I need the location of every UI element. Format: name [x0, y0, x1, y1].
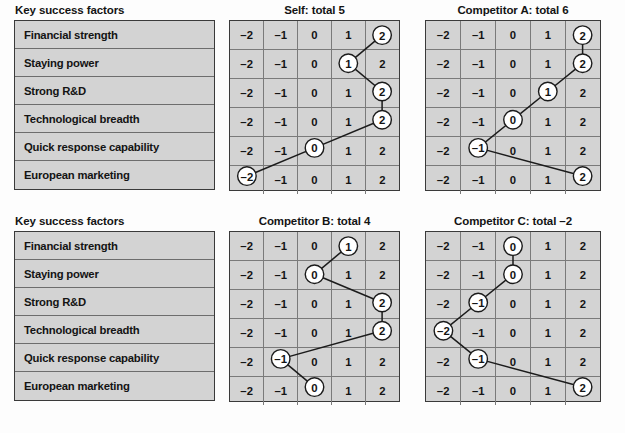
score-cell[interactable]: –1 — [461, 50, 496, 79]
score-cell[interactable]: –2 — [230, 166, 264, 195]
score-cell[interactable]: 2 — [565, 21, 600, 50]
score-cell[interactable]: 0 — [298, 348, 332, 377]
score-cell[interactable]: –2 — [230, 261, 264, 290]
score-cell[interactable]: 1 — [331, 79, 365, 108]
score-cell[interactable]: –1 — [461, 261, 496, 290]
score-cell[interactable]: –1 — [264, 377, 298, 406]
score-cell[interactable]: 2 — [565, 137, 600, 166]
score-cell[interactable]: –2 — [230, 290, 264, 319]
score-cell[interactable]: 0 — [298, 137, 332, 166]
score-cell[interactable]: 2 — [565, 108, 600, 137]
score-cell[interactable]: 2 — [565, 79, 600, 108]
score-cell[interactable]: 1 — [331, 377, 365, 406]
score-cell[interactable]: –1 — [264, 166, 298, 195]
score-cell[interactable]: 2 — [365, 108, 399, 137]
score-cell[interactable]: –2 — [230, 319, 264, 348]
score-cell[interactable]: –1 — [264, 137, 298, 166]
score-cell[interactable]: 1 — [530, 137, 565, 166]
score-cell[interactable]: 0 — [298, 232, 332, 261]
score-cell[interactable]: –2 — [426, 348, 461, 377]
score-cell[interactable]: 0 — [298, 21, 332, 50]
score-cell[interactable]: 0 — [496, 166, 531, 195]
score-cell[interactable]: 0 — [496, 50, 531, 79]
score-cell[interactable]: –1 — [264, 108, 298, 137]
score-cell[interactable]: –2 — [230, 377, 264, 406]
score-cell[interactable]: –1 — [264, 319, 298, 348]
score-cell[interactable]: –2 — [426, 377, 461, 406]
score-cell[interactable]: 1 — [331, 232, 365, 261]
score-cell[interactable]: –1 — [264, 50, 298, 79]
score-cell[interactable]: 1 — [530, 348, 565, 377]
score-cell[interactable]: 1 — [331, 108, 365, 137]
score-cell[interactable]: –1 — [461, 319, 496, 348]
score-cell[interactable]: 1 — [331, 290, 365, 319]
score-cell[interactable]: –1 — [461, 79, 496, 108]
score-cell[interactable]: –2 — [230, 21, 264, 50]
score-cell[interactable]: 1 — [530, 50, 565, 79]
score-cell[interactable]: –1 — [461, 377, 496, 406]
score-cell[interactable]: 2 — [565, 261, 600, 290]
score-cell[interactable]: –1 — [264, 290, 298, 319]
score-cell[interactable]: 1 — [530, 21, 565, 50]
score-cell[interactable]: –2 — [426, 79, 461, 108]
score-cell[interactable]: –2 — [230, 232, 264, 261]
score-cell[interactable]: 0 — [298, 377, 332, 406]
score-cell[interactable]: 0 — [496, 21, 531, 50]
score-cell[interactable]: –1 — [461, 290, 496, 319]
score-cell[interactable]: 1 — [530, 79, 565, 108]
score-cell[interactable]: –1 — [264, 232, 298, 261]
score-cell[interactable]: –1 — [461, 21, 496, 50]
score-cell[interactable]: 0 — [298, 261, 332, 290]
score-cell[interactable]: 2 — [565, 290, 600, 319]
score-cell[interactable]: –1 — [264, 21, 298, 50]
score-cell[interactable]: –1 — [461, 108, 496, 137]
score-cell[interactable]: 2 — [565, 50, 600, 79]
score-cell[interactable]: –2 — [230, 79, 264, 108]
score-cell[interactable]: –1 — [461, 166, 496, 195]
score-cell[interactable]: 1 — [530, 108, 565, 137]
score-cell[interactable]: –2 — [230, 348, 264, 377]
score-cell[interactable]: –2 — [230, 108, 264, 137]
score-cell[interactable]: –2 — [426, 21, 461, 50]
score-cell[interactable]: –2 — [230, 50, 264, 79]
score-cell[interactable]: 1 — [331, 166, 365, 195]
score-cell[interactable]: –2 — [426, 232, 461, 261]
score-cell[interactable]: 2 — [365, 21, 399, 50]
score-cell[interactable]: 1 — [331, 319, 365, 348]
score-cell[interactable]: –1 — [461, 232, 496, 261]
score-cell[interactable]: 0 — [298, 50, 332, 79]
score-cell[interactable]: 2 — [565, 377, 600, 406]
score-cell[interactable]: 2 — [365, 319, 399, 348]
score-cell[interactable]: –2 — [426, 137, 461, 166]
score-cell[interactable]: 2 — [365, 232, 399, 261]
score-cell[interactable]: 2 — [365, 348, 399, 377]
score-cell[interactable]: –1 — [264, 261, 298, 290]
score-cell[interactable]: 0 — [298, 166, 332, 195]
score-cell[interactable]: 1 — [530, 377, 565, 406]
score-cell[interactable]: 2 — [565, 232, 600, 261]
score-cell[interactable]: 0 — [298, 290, 332, 319]
score-cell[interactable]: 0 — [496, 137, 531, 166]
score-cell[interactable]: 0 — [496, 79, 531, 108]
score-cell[interactable]: 1 — [331, 261, 365, 290]
score-cell[interactable]: –2 — [426, 108, 461, 137]
score-cell[interactable]: 0 — [496, 348, 531, 377]
score-cell[interactable]: 2 — [365, 377, 399, 406]
score-cell[interactable]: 0 — [496, 232, 531, 261]
score-cell[interactable]: –1 — [461, 348, 496, 377]
score-cell[interactable]: –1 — [264, 348, 298, 377]
score-cell[interactable]: –2 — [426, 50, 461, 79]
score-cell[interactable]: 2 — [565, 319, 600, 348]
score-cell[interactable]: 0 — [298, 319, 332, 348]
score-cell[interactable]: 2 — [365, 290, 399, 319]
score-cell[interactable]: 0 — [298, 79, 332, 108]
score-cell[interactable]: 1 — [530, 261, 565, 290]
score-cell[interactable]: 1 — [331, 50, 365, 79]
score-cell[interactable]: 1 — [530, 232, 565, 261]
score-cell[interactable]: 2 — [365, 79, 399, 108]
score-cell[interactable]: –1 — [264, 79, 298, 108]
score-cell[interactable]: 1 — [530, 290, 565, 319]
score-cell[interactable]: 1 — [331, 348, 365, 377]
score-cell[interactable]: 2 — [365, 50, 399, 79]
score-cell[interactable]: 2 — [565, 348, 600, 377]
